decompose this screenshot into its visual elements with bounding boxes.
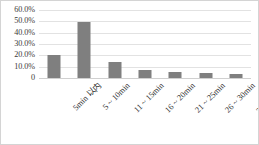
bar[interactable] (169, 72, 182, 78)
x-axis-tick-label: 11 ~ 15min (133, 81, 166, 114)
y-axis: 60.0%50.0%40.0%30.0%20.0%10.0%0 (1, 1, 37, 87)
bar[interactable] (78, 22, 91, 78)
bar-chart: 60.0%50.0%40.0%30.0%20.0%10.0%0 5min 以内5… (0, 0, 259, 145)
bar[interactable] (229, 74, 242, 78)
x-axis-tick-label: 16 ~ 20min (163, 81, 197, 115)
bar-slot (100, 10, 130, 78)
bar[interactable] (199, 73, 212, 78)
x-axis-tick-label: 26 ~ 30min (223, 81, 257, 115)
x-axis-tick-label: 21 ~ 25min (193, 81, 227, 115)
bar-slot (130, 10, 160, 78)
bar-slot (190, 10, 220, 78)
bar[interactable] (48, 55, 61, 78)
bar-slot (160, 10, 190, 78)
y-axis-tick-label: 50.0% (14, 17, 35, 25)
bar-series (39, 10, 251, 78)
y-axis-tick-label: 10.0% (14, 63, 35, 71)
x-axis-tick-label: 5 ~ 10min (101, 81, 132, 112)
bar[interactable] (138, 70, 151, 79)
bar-slot (69, 10, 99, 78)
y-axis-tick-label: 30.0% (14, 40, 35, 48)
y-axis-tick-label: 60.0% (14, 6, 35, 14)
y-axis-tick-label: 0 (31, 74, 35, 82)
bar-slot (39, 10, 69, 78)
y-axis-tick-label: 40.0% (14, 29, 35, 37)
y-axis-tick-label: 20.0% (14, 51, 35, 59)
x-axis: 5min 以内5 ~ 10min11 ~ 15min16 ~ 20min21 ~… (39, 79, 251, 141)
bar-slot (221, 10, 251, 78)
bar[interactable] (108, 62, 121, 78)
x-axis-tick-label: 5min 以内 (71, 81, 102, 112)
